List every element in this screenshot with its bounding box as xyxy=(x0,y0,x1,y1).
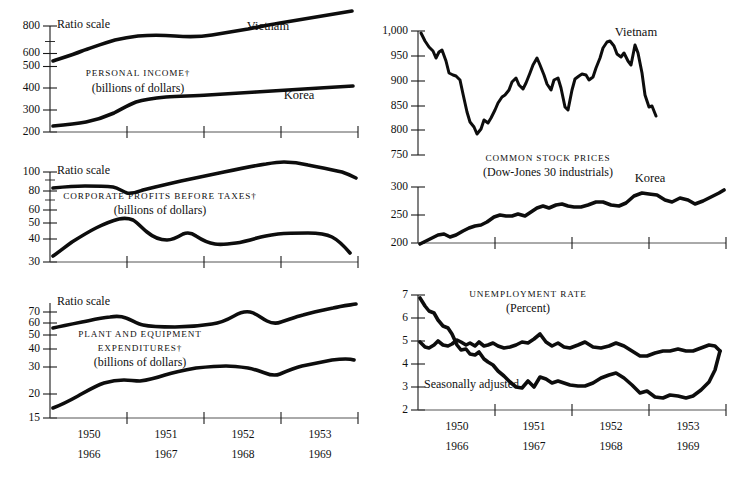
ytick-label: 50 xyxy=(29,216,41,228)
ytick-label: 500 xyxy=(23,59,41,71)
ytick-label: 900 xyxy=(391,74,409,86)
plant-equipment-caption-line2: EXPENDITURES† xyxy=(98,343,183,353)
y-axis-corporate-profits: 100 80 60 50 40 30 xyxy=(23,165,57,267)
common-stock-caption: COMMON STOCK PRICES xyxy=(485,153,610,163)
ytick-label: 400 xyxy=(23,81,41,93)
ytick-label: 300 xyxy=(391,180,409,192)
ytick-label: 15 xyxy=(29,411,41,423)
x-axis-common-stock-korea xyxy=(418,237,726,249)
ytick-label: 5 xyxy=(402,334,408,346)
ytick-label: 100 xyxy=(23,165,41,177)
xtick-label-year-bottom: 1966 xyxy=(446,440,469,452)
corporate-profits-caption: CORPORATE PROFITS BEFORE TAXES† xyxy=(63,191,257,201)
ytick-label: 20 xyxy=(29,387,41,399)
ytick-label: 950 xyxy=(391,49,409,61)
xtick-label-year-top: 1952 xyxy=(600,420,623,432)
panel-unemployment-rate: 7 6 5 4 3 2 1950 1951 1952 1953 1966 196… xyxy=(368,285,736,490)
ytick-label: 50 xyxy=(29,328,41,340)
series-label-korea: Korea xyxy=(635,171,666,185)
plant-equipment-units: (billions of dollars) xyxy=(94,355,187,369)
panel-corporate-profits: 100 80 60 50 40 30 Ratio scale CORPORATE… xyxy=(0,150,368,290)
ytick-label: 30 xyxy=(29,360,41,372)
unemployment-units: (Percent) xyxy=(506,301,550,315)
x-axis-plant-equipment: 1950 1951 1952 1953 1966 1967 1968 1969 xyxy=(50,412,358,460)
ratio-scale-note: Ratio scale xyxy=(57,163,110,177)
plant-equipment-caption-line1: PLANT AND EQUIPMENT xyxy=(78,329,202,339)
ytick-label: 2 xyxy=(402,403,408,415)
series-label-vietnam: Vietnam xyxy=(615,25,658,39)
ytick-label: 850 xyxy=(391,99,409,111)
ytick-label: 3 xyxy=(402,380,408,392)
economic-indicators-figure: 800 600 500 400 300 200 Ratio scale PERS… xyxy=(0,0,736,490)
xtick-label-year-bottom: 1967 xyxy=(523,440,546,452)
xtick-label-year-bottom: 1969 xyxy=(309,448,332,460)
common-stock-prices-chart: 1,000 950 900 850 800 750 Vietnam COMMON… xyxy=(368,0,736,180)
ytick-label: 200 xyxy=(391,236,409,248)
ytick-label: 300 xyxy=(23,103,41,115)
x-axis-personal-income xyxy=(50,126,358,138)
panel-common-stock-prices: 1,000 950 900 850 800 750 Vietnam COMMON… xyxy=(368,0,736,180)
xtick-label-year-top: 1950 xyxy=(78,428,101,440)
unemployment-caption: UNEMPLOYMENT RATE xyxy=(469,289,586,299)
panel-common-stock-prices-korea: 300 250 200 Korea xyxy=(368,170,736,290)
x-axis-corporate-profits xyxy=(50,256,358,268)
x-axis-unemployment: 1950 1951 1952 1953 1966 1967 1968 1969 xyxy=(418,404,726,452)
ytick-label: 30 xyxy=(29,255,41,267)
ytick-label: 1,000 xyxy=(382,24,408,37)
ytick-label: 40 xyxy=(29,342,41,354)
xtick-label-year-bottom: 1968 xyxy=(600,440,623,452)
y-axis-unemployment: 7 6 5 4 3 2 xyxy=(402,288,425,415)
xtick-label-year-top: 1952 xyxy=(232,428,255,440)
ytick-label: 600 xyxy=(23,46,41,58)
personal-income-caption: PERSONAL INCOME† xyxy=(86,68,191,78)
corporate-profits-chart: 100 80 60 50 40 30 Ratio scale CORPORATE… xyxy=(0,150,368,290)
y-axis-plant-equipment: 70 60 50 40 30 20 15 xyxy=(29,303,58,423)
xtick-label-year-top: 1953 xyxy=(677,420,700,432)
ratio-scale-note: Ratio scale xyxy=(57,17,110,31)
ytick-label: 800 xyxy=(23,19,41,31)
ytick-label: 250 xyxy=(391,208,409,220)
ytick-label: 4 xyxy=(402,357,408,369)
xtick-label-year-top: 1953 xyxy=(309,428,332,440)
ratio-scale-note: Ratio scale xyxy=(57,294,110,308)
xtick-label-year-bottom: 1969 xyxy=(677,440,700,452)
ytick-label: 60 xyxy=(29,316,41,328)
curve-unemployment-vietnam xyxy=(420,334,720,356)
ytick-label: 7 xyxy=(402,288,408,300)
personal-income-chart: 800 600 500 400 300 200 Ratio scale PERS… xyxy=(0,0,368,150)
xtick-label-year-bottom: 1966 xyxy=(78,448,101,460)
plant-equipment-chart: 70 60 50 40 30 20 15 1950 1951 1952 1953… xyxy=(0,285,368,490)
xtick-label-year-bottom: 1967 xyxy=(155,448,178,460)
ytick-label: 200 xyxy=(23,125,41,137)
personal-income-units: (billions of dollars) xyxy=(92,81,185,95)
y-axis-common-stock-korea: 300 250 200 xyxy=(391,180,425,248)
panel-plant-equipment: 70 60 50 40 30 20 15 1950 1951 1952 1953… xyxy=(0,285,368,490)
y-axis-personal-income: 800 600 500 400 300 200 xyxy=(23,19,57,137)
ytick-label: 750 xyxy=(391,148,409,160)
curve-common-stock-vietnam xyxy=(421,33,656,134)
xtick-label-year-bottom: 1968 xyxy=(232,448,255,460)
y-axis-common-stock-prices: 1,000 950 900 850 800 750 xyxy=(382,24,425,160)
xtick-label-year-top: 1950 xyxy=(446,420,469,432)
common-stock-prices-korea-chart: 300 250 200 Korea xyxy=(368,170,736,290)
unemployment-rate-chart: 7 6 5 4 3 2 1950 1951 1952 1953 1966 196… xyxy=(368,285,736,490)
corporate-profits-units: (billions of dollars) xyxy=(114,203,207,217)
xtick-label-year-top: 1951 xyxy=(155,428,178,440)
ytick-label: 6 xyxy=(402,311,408,323)
curve-corporate-profits-korea xyxy=(53,218,350,256)
ytick-label: 40 xyxy=(29,232,41,244)
curve-common-stock-korea xyxy=(420,190,724,244)
ytick-label: 80 xyxy=(29,184,41,196)
ytick-label: 800 xyxy=(391,123,409,135)
xtick-label-year-top: 1951 xyxy=(523,420,546,432)
panel-personal-income: 800 600 500 400 300 200 Ratio scale PERS… xyxy=(0,0,368,150)
ytick-label: 60 xyxy=(29,203,41,215)
